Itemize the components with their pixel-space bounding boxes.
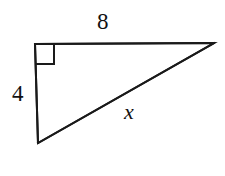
figure-background [0, 0, 225, 176]
side-length-label-top: 8 [97, 10, 109, 33]
side-length-label-hypotenuse: x [124, 101, 134, 123]
side-length-label-left: 4 [12, 82, 24, 105]
triangle-figure: 8 4 x [0, 0, 225, 176]
side-top-leg [35, 43, 214, 44]
triangle-diagram-svg [0, 0, 225, 176]
